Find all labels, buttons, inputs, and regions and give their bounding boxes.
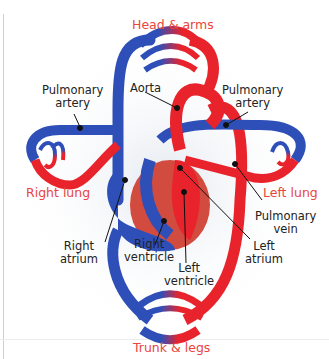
region-left-lung: Left lung [263, 186, 318, 199]
label-pulmonary-vein: Pulmonaryvein [255, 210, 316, 236]
region-head-arms: Head & arms [132, 18, 214, 31]
region-right-lung: Right lung [26, 186, 90, 199]
label-pulmonary-artery-left: Pulmonaryartery [42, 84, 103, 110]
circulation-diagram [0, 0, 329, 359]
label-right-atrium: Rightatrium [60, 240, 98, 266]
label-left-ventricle: Leftventricle [164, 262, 214, 288]
region-trunk-legs: Trunk & legs [133, 341, 210, 354]
label-right-ventricle: Rightventricle [124, 238, 174, 264]
label-pulmonary-artery-right: Pulmonaryartery [222, 84, 283, 110]
label-aorta: Aorta [130, 82, 161, 95]
label-left-atrium: Leftatrium [245, 240, 283, 266]
